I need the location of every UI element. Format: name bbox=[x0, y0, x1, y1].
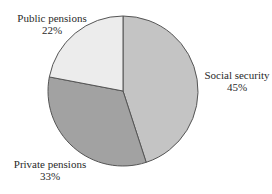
label-public-pensions-name: Public pensions bbox=[12, 12, 92, 24]
label-public-pensions-value: 22% bbox=[12, 24, 92, 36]
label-public-pensions: Public pensions 22% bbox=[12, 12, 92, 36]
label-social-security-name: Social security bbox=[202, 69, 272, 81]
label-private-pensions: Private pensions 33% bbox=[5, 158, 95, 182]
label-social-security-value: 45% bbox=[202, 81, 272, 93]
label-private-pensions-value: 33% bbox=[5, 170, 95, 182]
label-private-pensions-name: Private pensions bbox=[5, 158, 95, 170]
pie-slices bbox=[48, 16, 198, 166]
label-social-security: Social security 45% bbox=[202, 69, 272, 93]
